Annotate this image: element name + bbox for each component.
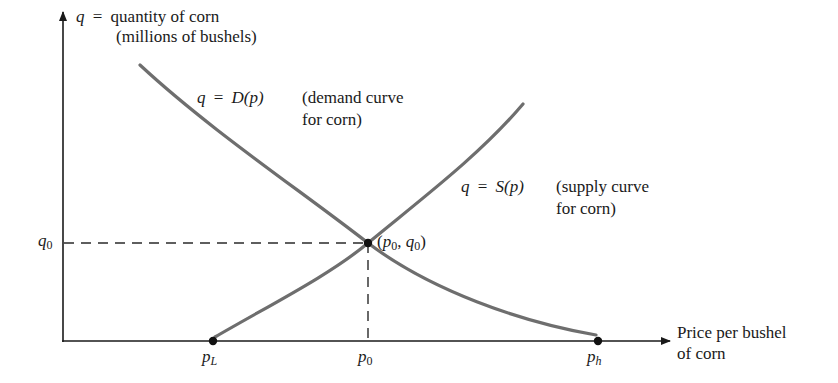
eq-close-paren: )	[420, 232, 426, 251]
eq-p-symbol: p	[383, 232, 392, 251]
p0-tick-label: p0	[358, 347, 373, 371]
y-axis-equals: =	[93, 7, 103, 26]
supply-eq-rhs: S(p)	[496, 177, 524, 196]
q0-sub: 0	[47, 238, 53, 252]
pL-point	[209, 337, 217, 345]
p0-sub: 0	[367, 354, 373, 368]
q0-symbol: q	[38, 231, 47, 250]
demand-eq-lhs: q	[197, 88, 206, 107]
y-axis-label-line1: quantity of corn	[111, 7, 220, 26]
pL-symbol: p	[202, 347, 211, 366]
supply-curve-description-line1: (supply curve	[556, 177, 649, 196]
demand-eq-rhs: D(p)	[232, 88, 264, 107]
demand-curve-description-line1: (demand curve	[302, 88, 403, 107]
supply-eq-equals: =	[478, 177, 488, 196]
demand-eq-equals: =	[214, 88, 224, 107]
x-axis-label-line2: of corn	[677, 344, 726, 363]
eq-q-symbol: q	[406, 232, 415, 251]
supply-eq-lhs: q	[461, 177, 470, 196]
supply-curve-label: q = S(p)	[461, 177, 524, 196]
demand-curve-label: q = D(p)	[197, 88, 264, 107]
p0-symbol: p	[358, 347, 367, 366]
ph-point	[594, 337, 602, 345]
y-axis-label-line2: (millions of bushels)	[116, 27, 257, 46]
equilibrium-point	[364, 239, 372, 247]
equilibrium-label: (p0, q0)	[377, 232, 426, 256]
y-axis-variable: q	[76, 7, 85, 26]
eq-comma: ,	[397, 232, 406, 251]
pL-sub: L	[211, 354, 218, 368]
supply-curve-description-line2: for corn)	[556, 199, 616, 218]
x-axis-label-line1: Price per bushel	[677, 323, 787, 342]
pL-tick-label: pL	[202, 347, 217, 371]
ph-tick-label: ph	[587, 347, 602, 371]
ph-symbol: p	[587, 347, 596, 366]
ph-sub: h	[596, 354, 602, 368]
y-axis-label: q = quantity of corn	[76, 7, 219, 26]
demand-curve-description-line2: for corn)	[302, 110, 362, 129]
q0-tick-label: q0	[38, 231, 53, 255]
